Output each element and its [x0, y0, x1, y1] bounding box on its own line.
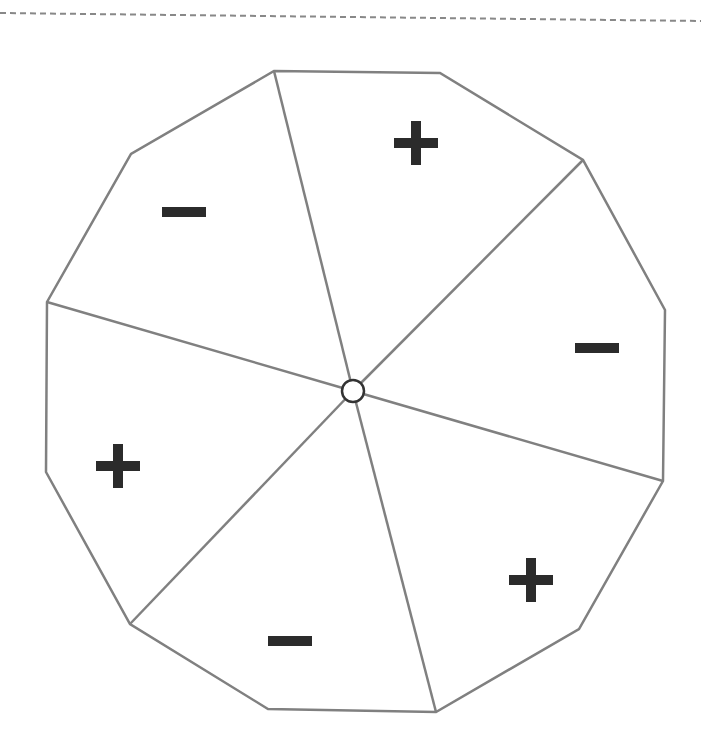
- sector-divider-line: [353, 391, 663, 481]
- plus-sign-icon: [96, 444, 140, 488]
- sector-divider-line: [130, 391, 353, 624]
- minus-sign-icon: [162, 207, 206, 217]
- sector-divider-line: [353, 160, 583, 391]
- dashed-top-rule: [0, 13, 701, 21]
- sector-divider-line: [274, 71, 353, 391]
- minus-sign-icon: [268, 636, 312, 646]
- sector-divider-line: [47, 302, 353, 391]
- center-pivot-circle: [342, 380, 364, 402]
- sector-diagram: [0, 0, 701, 750]
- minus-sign-icon: [575, 343, 619, 353]
- sector-divider-line: [353, 391, 436, 712]
- plus-sign-icon: [394, 121, 438, 165]
- plus-sign-icon: [509, 558, 553, 602]
